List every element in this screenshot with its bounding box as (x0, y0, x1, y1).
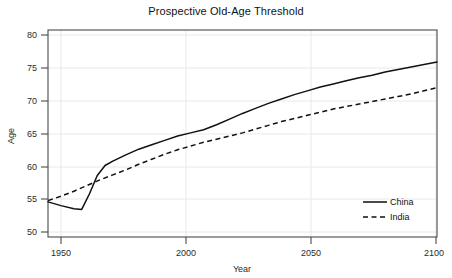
y-axis-ticks (41, 35, 48, 232)
y-tick-label-65: 65 (27, 129, 37, 139)
x-axis-ticks (61, 237, 436, 244)
y-tick-label-75: 75 (27, 63, 37, 73)
x-tick-label-1950: 1950 (51, 248, 71, 258)
x-tick-label-2050: 2050 (301, 248, 321, 258)
y-axis-title: Age (6, 128, 16, 144)
legend-label-china: China (390, 197, 414, 207)
x-tick-label-2100: 2100 (424, 248, 444, 258)
legend-label-india: India (390, 212, 410, 222)
chart-figure: Prospective Old-Age Threshold (0, 0, 452, 278)
y-tick-label-80: 80 (27, 30, 37, 40)
x-tick-label-2000: 2000 (176, 248, 196, 258)
y-axis-tick-labels: 50 55 60 65 70 75 80 (27, 30, 37, 237)
y-tick-label-60: 60 (27, 162, 37, 172)
x-axis-tick-labels: 1950 2000 2050 2100 (51, 248, 444, 258)
y-tick-label-70: 70 (27, 96, 37, 106)
y-tick-label-50: 50 (27, 227, 37, 237)
x-axis-title: Year (233, 264, 251, 274)
line-chart-plot: 50 55 60 65 70 75 80 Age 1950 2000 2050 … (0, 0, 452, 278)
y-tick-label-55: 55 (27, 194, 37, 204)
